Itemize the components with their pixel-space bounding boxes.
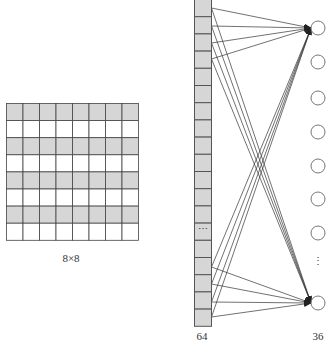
grid-cell bbox=[56, 104, 73, 121]
grid-cell bbox=[106, 121, 123, 138]
vector-cell bbox=[195, 0, 212, 17]
grid-cell bbox=[23, 138, 40, 155]
input-vector-column bbox=[195, 0, 212, 326]
grid-cell bbox=[73, 189, 90, 206]
grid-cell bbox=[56, 206, 73, 223]
output-nodes bbox=[311, 21, 325, 310]
connection-arrow bbox=[212, 303, 312, 317]
grid-cell bbox=[56, 223, 73, 240]
grid-cell bbox=[7, 121, 24, 138]
grid-cell bbox=[106, 223, 123, 240]
vector-cell bbox=[195, 86, 212, 103]
output-node bbox=[311, 125, 325, 139]
grid-cell bbox=[23, 172, 40, 189]
connection-arrow bbox=[212, 59, 312, 303]
grid-cell bbox=[40, 189, 57, 206]
grid-cell bbox=[40, 121, 57, 138]
grid-cell bbox=[122, 223, 139, 240]
grid-cell bbox=[56, 172, 73, 189]
grid-cell bbox=[122, 189, 139, 206]
connection-arrow bbox=[212, 28, 312, 284]
grid-cell bbox=[40, 138, 57, 155]
vector-cell bbox=[195, 137, 212, 154]
grid-cell bbox=[23, 206, 40, 223]
vector-cell bbox=[195, 103, 212, 120]
output-node bbox=[311, 192, 325, 206]
grid-cell bbox=[106, 104, 123, 121]
vector-cell bbox=[195, 258, 212, 275]
output-node bbox=[311, 159, 325, 173]
grid-cell bbox=[89, 223, 106, 240]
grid-cell bbox=[89, 189, 106, 206]
grid-cell bbox=[89, 138, 106, 155]
vector-cell bbox=[195, 275, 212, 292]
connection-arrow bbox=[212, 284, 312, 303]
grid-cell bbox=[23, 121, 40, 138]
grid-cell bbox=[89, 206, 106, 223]
vector-cell bbox=[195, 240, 212, 257]
grid-cell bbox=[7, 189, 24, 206]
input-image-grid bbox=[7, 104, 139, 241]
connection-arrow bbox=[212, 28, 312, 43]
grid-cell bbox=[73, 155, 90, 172]
grid-cell bbox=[7, 172, 24, 189]
connection-arrow bbox=[212, 302, 312, 303]
vector-ellipsis: ⋯ bbox=[194, 223, 211, 235]
grid-cell bbox=[106, 155, 123, 172]
grid-cell bbox=[106, 206, 123, 223]
grid-cell bbox=[23, 189, 40, 206]
grid-cell bbox=[40, 172, 57, 189]
grid-cell bbox=[122, 121, 139, 138]
output-ellipsis: ⋮ bbox=[312, 258, 324, 264]
connection-arrow bbox=[212, 28, 312, 59]
grid-cell bbox=[73, 223, 90, 240]
grid-cell bbox=[40, 155, 57, 172]
grid-cell bbox=[73, 104, 90, 121]
grid-cell bbox=[122, 172, 139, 189]
connection-arrow bbox=[212, 28, 312, 317]
grid-cell bbox=[56, 138, 73, 155]
grid-cell bbox=[23, 155, 40, 172]
grid-cell bbox=[122, 104, 139, 121]
output-count-label: 36 bbox=[303, 330, 330, 342]
grid-cell bbox=[89, 104, 106, 121]
connection-arrow bbox=[212, 8, 312, 28]
input-count-label: 64 bbox=[187, 330, 217, 342]
vector-cell bbox=[195, 17, 212, 34]
connection-lines bbox=[212, 8, 312, 317]
diagram-canvas bbox=[0, 0, 330, 350]
vector-cell bbox=[195, 68, 212, 85]
grid-cell bbox=[73, 121, 90, 138]
output-node bbox=[311, 91, 325, 105]
grid-cell bbox=[89, 172, 106, 189]
vector-cell bbox=[195, 206, 212, 223]
grid-cell bbox=[106, 172, 123, 189]
grid-cell bbox=[56, 121, 73, 138]
grid-cell bbox=[122, 206, 139, 223]
output-node bbox=[311, 55, 325, 69]
grid-cell bbox=[73, 206, 90, 223]
grid-cell bbox=[89, 121, 106, 138]
grid-cell bbox=[73, 138, 90, 155]
grid-cell bbox=[40, 223, 57, 240]
vector-cell bbox=[195, 292, 212, 309]
grid-cell bbox=[7, 104, 24, 121]
grid-cell bbox=[7, 223, 24, 240]
grid-cell bbox=[23, 223, 40, 240]
connection-arrow bbox=[212, 28, 312, 267]
grid-cell bbox=[56, 189, 73, 206]
vector-cell bbox=[195, 189, 212, 206]
grid-cell bbox=[7, 138, 24, 155]
connection-arrow bbox=[212, 267, 312, 303]
grid-cell bbox=[40, 206, 57, 223]
output-node bbox=[311, 21, 325, 35]
grid-cell bbox=[23, 104, 40, 121]
vector-cell bbox=[195, 120, 212, 137]
grid-cell bbox=[122, 138, 139, 155]
grid-cell bbox=[73, 172, 90, 189]
grid-cell bbox=[89, 155, 106, 172]
vector-cell bbox=[195, 34, 212, 51]
grid-cell bbox=[7, 206, 24, 223]
connection-arrow bbox=[212, 26, 312, 28]
grid-size-label: 8×8 bbox=[41, 252, 101, 264]
